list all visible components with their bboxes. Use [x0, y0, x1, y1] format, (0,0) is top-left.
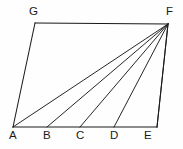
- segment-G-F: [35, 23, 168, 24]
- vertex-label-d: D: [110, 129, 118, 141]
- cevian-F-D: [114, 24, 168, 127]
- figure-canvas: [0, 0, 183, 149]
- segment-A-G: [13, 23, 35, 127]
- vertex-label-e: E: [144, 129, 152, 141]
- cevian-F-E: [157, 24, 168, 127]
- cevian-F-A: [13, 24, 168, 127]
- vertex-label-c: C: [76, 129, 84, 141]
- vertex-label-b: B: [43, 129, 51, 141]
- vertex-label-a: A: [9, 129, 17, 141]
- cevian-F-B: [47, 24, 168, 127]
- geometry-figure: G F A B C D E: [0, 0, 183, 149]
- vertex-label-g: G: [29, 5, 38, 17]
- vertex-label-f: F: [166, 5, 173, 17]
- cevian-F-C: [80, 24, 168, 127]
